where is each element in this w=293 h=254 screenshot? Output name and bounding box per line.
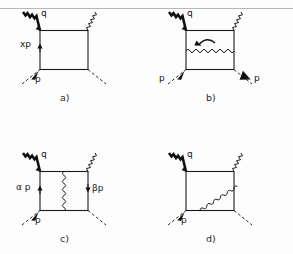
feynman-diagram-figure: q xp p a) q p p (0, 0, 293, 254)
panel-a: q xp p a) (20, 8, 106, 103)
panel-c-left-rail-arrowhead (37, 185, 42, 190)
panel-c-label-q: q (41, 149, 47, 159)
panel-d-label-q: q (187, 149, 193, 159)
panel-a-internal-arrowhead (37, 43, 42, 48)
panel-b-label-p-left: p (159, 73, 165, 83)
panel-a-label-xp: xp (20, 39, 31, 49)
panel-c-internal-gluon (62, 172, 65, 211)
panel-d-caption: d) (206, 233, 216, 244)
panel-c-photon-out (87, 153, 97, 172)
panel-b-circulation-arrow (199, 40, 215, 45)
panel-c-label-alpha-p: α p (16, 182, 31, 192)
panel-d-internal-gluon (200, 186, 237, 211)
panel-b-label-q: q (187, 8, 193, 18)
panel-a-label-p: p (35, 74, 41, 84)
panel-d-parton-out (234, 211, 252, 226)
panel-c-parton-out (88, 211, 106, 226)
panel-d-label-p: p (181, 215, 187, 225)
panel-c-label-beta-p: βp (92, 183, 104, 193)
panel-a-caption: a) (60, 92, 70, 103)
panel-a-loop-box (40, 31, 88, 70)
panel-b-parton-in-left-arrowhead (177, 71, 184, 80)
panel-a-photon-out (87, 12, 97, 31)
panel-b-photon-out (233, 12, 243, 31)
panel-c-caption: c) (60, 233, 69, 244)
figure-canvas: q xp p a) q p p (0, 0, 293, 254)
panel-b-parton-out-right-arrowhead (240, 71, 251, 80)
panel-c-right-rail-arrowhead (85, 187, 90, 192)
panel-a-label-q: q (41, 8, 47, 18)
panel-b-caption: b) (206, 92, 216, 103)
panel-c: q α p βp p c) (16, 149, 106, 244)
panel-b-label-p-right: p (254, 73, 260, 83)
panel-b: q p p b) (159, 8, 260, 103)
panel-d-loop-box (186, 172, 234, 211)
panel-d: q p d) (168, 149, 252, 244)
panel-b-internal-gluon (186, 49, 234, 52)
panel-b-parton-in-left (168, 70, 186, 85)
panel-c-label-p: p (35, 215, 41, 225)
panel-d-photon-out (233, 153, 243, 172)
panel-a-parton-out (88, 70, 106, 85)
